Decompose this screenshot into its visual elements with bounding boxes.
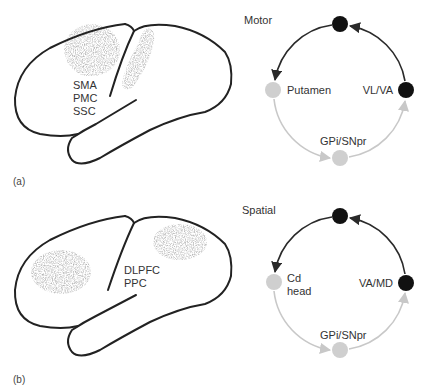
label-vl-va: VL/VA [363,84,394,96]
arrow-top-to-cd-head [275,217,332,272]
cortex-label-dlpfc: DLPFC [124,264,160,276]
node-vl-va [398,82,414,98]
cortex-label-sma: SMA [73,79,98,91]
node-cortex-top [332,16,348,32]
arrow-top-to-putamen [275,25,332,80]
label-putamen: Putamen [287,84,331,96]
arrow-putamen-to-gpi [274,99,330,158]
label-gpi-snpr-b: GPi/SNpr [320,329,367,341]
cortex-label-pmc: PMC [73,92,98,104]
stipple-postcentral [122,28,154,89]
diagram-canvas: SMA PMC SSC (a) Motor Putamen GPi/SNpr V… [0,0,426,390]
node-cd-head [266,274,282,290]
arrow-gpi-to-vlva [349,101,405,157]
stipple-ppc [153,224,207,260]
label-gpi-snpr-a: GPi/SNpr [320,135,367,147]
arrow-vamd-to-top [350,218,405,274]
label-va-md: VA/MD [359,277,393,289]
loop-title-spatial: Spatial [242,204,276,216]
arrow-vlva-to-top [350,26,405,81]
spatial-loop: Cd head GPi/SNpr VA/MD [266,208,414,358]
label-cd: Cd [287,272,301,284]
node-gpi-snpr [332,150,348,166]
panel-b: DLPFC PPC (b) Spatial Cd head GPi/SNpr V… [13,204,414,385]
node-putamen [265,82,281,98]
motor-loop: Putamen GPi/SNpr VL/VA [265,16,414,166]
stipple-dlpfc [31,250,91,294]
panel-label-a: (a) [13,176,25,187]
panel-a: SMA PMC SSC (a) Motor Putamen GPi/SNpr V… [13,14,414,187]
node-gpi-snpr-b [332,342,348,358]
brain-outline-a [15,24,231,164]
loop-title-motor: Motor [244,14,272,26]
arrow-cd-head-to-gpi [274,291,330,350]
node-cortex-top-b [332,208,348,224]
cortex-label-ssc: SSC [73,105,96,117]
cortex-label-ppc: PPC [124,277,147,289]
panel-label-b: (b) [13,374,25,385]
node-va-md [398,275,414,291]
label-head: head [287,285,311,297]
